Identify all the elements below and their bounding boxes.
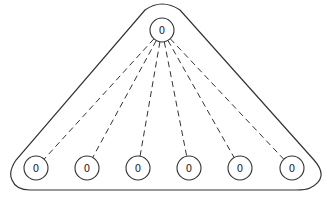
root-node: 0 — [150, 18, 174, 42]
node-label: 0 — [159, 25, 165, 36]
node-label: 0 — [289, 163, 295, 174]
leaf-node-6: 0 — [280, 156, 304, 180]
nodes: 0000000 — [24, 18, 304, 180]
node-label: 0 — [135, 163, 141, 174]
leaf-node-2: 0 — [75, 156, 99, 180]
node-label: 0 — [186, 163, 192, 174]
edge-root-leaf-2 — [93, 41, 157, 158]
edge-root-leaf-6 — [170, 39, 284, 160]
node-label: 0 — [33, 163, 39, 174]
star-graph-diagram: 0000000 — [0, 0, 325, 200]
edges — [44, 39, 284, 160]
edge-root-leaf-1 — [44, 39, 154, 159]
edge-root-leaf-3 — [140, 42, 160, 156]
edge-root-leaf-5 — [168, 40, 234, 157]
leaf-node-3: 0 — [126, 156, 150, 180]
leaf-node-1: 0 — [24, 156, 48, 180]
node-label: 0 — [237, 163, 243, 174]
leaf-node-5: 0 — [228, 156, 252, 180]
node-label: 0 — [84, 163, 90, 174]
leaf-node-4: 0 — [177, 156, 201, 180]
edge-root-leaf-4 — [164, 42, 186, 156]
